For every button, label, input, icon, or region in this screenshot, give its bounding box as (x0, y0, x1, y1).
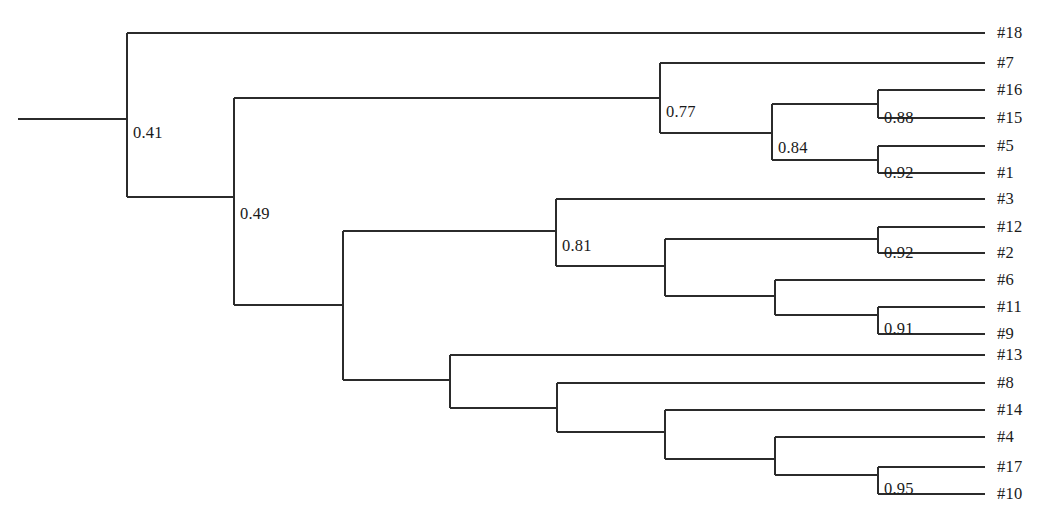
node-vertical-bars (127, 33, 878, 494)
tip-label-n15: #15 (997, 110, 1023, 127)
support-label-n-root: 0.41 (133, 125, 163, 142)
support-label-n-091: 0.91 (884, 321, 914, 338)
support-label-n-088: 0.88 (884, 110, 914, 127)
support-label-n-049: 0.49 (240, 206, 270, 223)
support-label-n-084: 0.84 (778, 140, 808, 157)
tip-label-n14: #14 (997, 402, 1023, 419)
support-label-n-095: 0.95 (884, 481, 914, 498)
support-label-n-092b: 0.92 (884, 245, 914, 262)
support-label-n-081: 0.81 (562, 238, 592, 255)
tip-label-n16: #16 (997, 82, 1023, 99)
tip-label-n17: #17 (997, 459, 1023, 476)
tip-label-n13: #13 (997, 347, 1023, 364)
support-label-n-092a: 0.92 (884, 165, 914, 182)
tip-label-n11: #11 (997, 299, 1022, 316)
tip-label-n2: #2 (997, 245, 1014, 262)
tip-label-n5: #5 (997, 138, 1014, 155)
tip-label-n9: #9 (997, 326, 1014, 343)
tip-label-n1: #1 (997, 165, 1014, 182)
phylogenetic-tree-figure: 0.410.490.770.840.880.920.810.920.910.95… (0, 0, 1056, 520)
tip-label-n12: #12 (997, 219, 1023, 236)
tip-label-n7: #7 (997, 55, 1014, 72)
tip-label-n18: #18 (997, 25, 1023, 42)
tip-label-n6: #6 (997, 272, 1014, 289)
tip-label-n8: #8 (997, 375, 1014, 392)
internal-branch-connectors (127, 98, 878, 475)
tip-label-n3: #3 (997, 191, 1014, 208)
support-label-n-077: 0.77 (666, 104, 696, 121)
tip-label-n10: #10 (997, 486, 1023, 503)
tip-label-n4: #4 (997, 429, 1014, 446)
